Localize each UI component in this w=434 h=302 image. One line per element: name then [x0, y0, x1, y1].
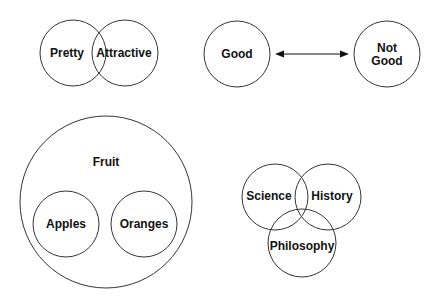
opposites-diagram: Good Not Good	[204, 21, 420, 87]
fruit-circle	[20, 116, 192, 288]
containment-diagram: Fruit Apples Oranges	[20, 116, 192, 288]
triple-overlap-diagram: Science History Philosophy	[242, 164, 361, 277]
overlap-diagram: Pretty Attractive	[40, 20, 158, 86]
apples-label: Apples	[46, 217, 86, 231]
double-arrow-icon	[275, 51, 349, 58]
pretty-label: Pretty	[50, 46, 84, 60]
not-good-label-line2: Good	[371, 54, 402, 68]
attractive-label: Attractive	[96, 46, 152, 60]
concept-diagrams-canvas: Pretty Attractive Good Not Good Fruit Ap…	[0, 0, 434, 302]
science-label: Science	[246, 189, 292, 203]
philosophy-label: Philosophy	[270, 239, 335, 253]
history-label: History	[311, 189, 353, 203]
oranges-label: Oranges	[120, 217, 169, 231]
not-good-label-line1: Not	[377, 41, 397, 55]
good-label: Good	[221, 47, 252, 61]
fruit-label: Fruit	[93, 155, 120, 169]
